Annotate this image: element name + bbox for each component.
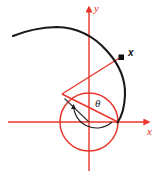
chord-segment: [62, 94, 118, 122]
figure-canvas: [0, 0, 159, 177]
point-x-marker: [119, 55, 125, 61]
x-axis-label: x: [147, 126, 152, 137]
y-axis-label: y: [94, 3, 99, 14]
involute-figure: y x θ x: [0, 0, 159, 177]
involute-curve: [13, 27, 125, 123]
point-x-label: x: [128, 48, 134, 58]
angle-theta-label: θ: [95, 98, 100, 109]
tangent-segment: [62, 57, 121, 94]
